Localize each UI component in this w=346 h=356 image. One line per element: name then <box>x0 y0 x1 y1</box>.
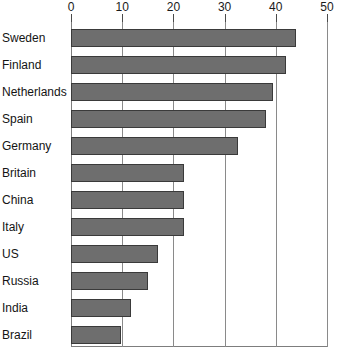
category-label: Germany <box>2 139 51 153</box>
x-tick-label: 40 <box>269 0 282 14</box>
x-tick-label: 50 <box>320 0 333 14</box>
category-label: China <box>2 193 33 207</box>
bar-chart: 01020304050 SwedenFinlandNetherlandsSpai… <box>0 0 346 356</box>
bar <box>71 218 184 236</box>
x-tick-label: 10 <box>116 0 129 14</box>
category-label: Finland <box>2 58 41 72</box>
bar <box>71 29 296 47</box>
x-tick-mark <box>71 14 72 22</box>
x-tick-mark <box>122 14 123 22</box>
category-label: Spain <box>2 112 33 126</box>
category-label: US <box>2 247 19 261</box>
bar <box>71 245 158 263</box>
x-tick-label: 30 <box>218 0 231 14</box>
x-tick-label: 0 <box>68 0 75 14</box>
x-tick-mark <box>276 14 277 22</box>
category-label: Netherlands <box>2 85 67 99</box>
gridline <box>327 22 328 347</box>
category-label: Brazil <box>2 328 32 342</box>
x-tick-mark <box>173 14 174 22</box>
category-label: Sweden <box>2 31 45 45</box>
bar <box>71 137 238 155</box>
bar <box>71 191 184 209</box>
bar <box>71 83 273 101</box>
bar <box>71 110 266 128</box>
x-tick-label: 20 <box>167 0 180 14</box>
category-label: Russia <box>2 274 39 288</box>
bar <box>71 56 286 74</box>
bar <box>71 299 131 317</box>
x-axis-top: 01020304050 <box>0 0 346 22</box>
category-label: Italy <box>2 220 24 234</box>
bar <box>71 164 184 182</box>
bar <box>71 326 121 344</box>
bar <box>71 272 148 290</box>
category-label: India <box>2 301 28 315</box>
category-label: Britain <box>2 166 36 180</box>
x-tick-mark <box>327 14 328 22</box>
x-tick-mark <box>225 14 226 22</box>
